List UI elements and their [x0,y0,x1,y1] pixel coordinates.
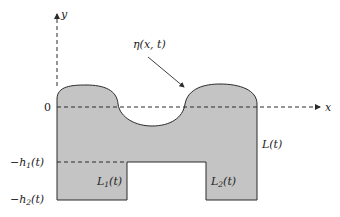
surface-pointer-arrow [148,57,184,87]
y-axis-label: y [60,8,68,21]
x-axis-label: x [325,101,332,114]
fluid-domain-diagram: y x 0 η(x, t) −h1(t) −h2(t) L(t) L1(t) L… [0,0,340,217]
surface-label: η(x, t) [133,38,166,51]
h1-label: −h1(t) [10,156,44,170]
h2-label: −h2(t) [10,193,44,207]
L-label: L(t) [261,138,282,151]
L2-label: L2(t) [210,175,236,189]
origin-label: 0 [44,101,51,114]
L1-label: L1(t) [96,175,122,189]
